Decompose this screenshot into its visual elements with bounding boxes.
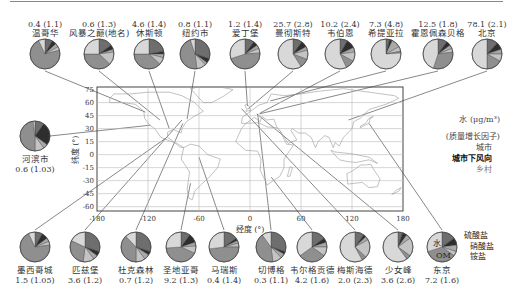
site-pie: 韦伯恩10.2 (2.4) [320, 20, 359, 69]
site-pie: 风暴之巅(地名)0.6 (1.3) [69, 20, 130, 69]
y-axis-label: 纬度 (°) [70, 136, 80, 165]
leader-line [149, 71, 169, 129]
site-pie: 河滨市0.6 (1.03) [15, 121, 54, 174]
site-value: 7.2 (1.6) [425, 276, 459, 285]
y-tick-label: 30 [85, 125, 94, 133]
site-name: 曼彻斯特 [275, 28, 311, 38]
map-gridlines [97, 87, 403, 211]
leader-line [369, 123, 442, 230]
x-tick-label: -180 [89, 215, 105, 223]
site-name: 韦伯恩 [327, 28, 354, 38]
leader-line [45, 71, 145, 112]
pie-slice-om [20, 121, 35, 151]
coastline [110, 87, 402, 200]
pie-slice-water [472, 39, 487, 69]
x-axis-ticks: -180-120-60060120180 [89, 215, 410, 223]
site-value: 12.5 (1.8) [418, 20, 457, 29]
site-pie: 匹兹堡3.6 (1.2) [68, 232, 102, 285]
leader-line [99, 71, 160, 120]
site-value: 1.2 (1.4) [228, 20, 262, 29]
x-tick-label: -120 [140, 215, 156, 223]
y-tick-label: 60 [85, 99, 94, 107]
leader-line [259, 71, 438, 114]
pie-label-water: 水 [433, 238, 441, 248]
site-pie: 杜克森林0.7 (1.2) [118, 232, 154, 285]
y-tick-label: -15 [83, 164, 94, 172]
y-tick-label: -60 [83, 203, 94, 211]
site-value: 0.3 (1.1) [254, 276, 288, 285]
site-value: 1.5 (1.05) [15, 276, 54, 285]
pie-label-om: OM [436, 251, 451, 260]
leader-line [136, 123, 183, 230]
x-tick-label: 60 [297, 215, 306, 223]
legend-value-label: 水 (μg/m³) [459, 114, 500, 124]
site-pie: 切博格0.3 (1.1) [254, 232, 288, 285]
site-name: 圣地亚哥 [163, 265, 199, 275]
chart-figure: -180-120-60060120180 75604530150-15-30-4… [0, 0, 513, 301]
y-tick-label: -30 [83, 177, 94, 185]
site-value: 4.6 (1.4) [132, 20, 166, 29]
site-name: 杜克森林 [118, 265, 154, 275]
site-value: 0.6 (1.3) [82, 20, 116, 29]
site-pie: 墨西哥城1.5 (1.05) [15, 232, 54, 285]
site-name: 休斯顿 [136, 28, 163, 38]
site-name: 霍恩佩森贝格 [411, 28, 465, 38]
site-pie: 韦尔格贡德4.2 (1.6) [290, 232, 335, 285]
site-value: 0.4 (1.4) [207, 276, 241, 285]
leader-line [349, 71, 487, 120]
site-value: 25.7 (2.8) [273, 20, 312, 29]
site-value: 4.2 (1.6) [295, 276, 329, 285]
x-axis-label: 经度 (°) [236, 224, 265, 234]
site-pie: 霍恩佩森贝格12.5 (1.8) [411, 20, 465, 69]
site-value: 78.1 (2.1) [467, 20, 506, 29]
site-name: 匹兹堡 [72, 265, 99, 275]
site-pie: 少女峰3.6 (2.6) [381, 232, 415, 285]
site-pie: 希提亚拉7.3 (4.8) [368, 20, 404, 69]
site-name: 切博格 [258, 265, 285, 275]
site-value: 3.6 (2.6) [381, 276, 415, 285]
site-name: 温哥华 [32, 28, 59, 38]
legend-sulfate: 硫酸盐 [464, 230, 488, 240]
leader-line [248, 71, 293, 109]
leader-lines [35, 71, 487, 230]
site-name: 梅斯海德 [337, 265, 373, 275]
site-name: 河滨市 [22, 154, 49, 164]
leader-line [260, 71, 340, 113]
site-pie: 爱丁堡1.2 (1.4) [228, 20, 262, 69]
site-value: 7.3 (4.8) [369, 20, 403, 29]
site-pie: 梅斯海德2.0 (2.3) [337, 232, 373, 285]
site-value: 0.4 (1.1) [28, 20, 62, 29]
y-tick-label: 0 [90, 151, 94, 159]
legend-factor-label: (质量增长因子) [446, 131, 500, 141]
site-name: 东京 [433, 265, 451, 275]
leader-line [271, 177, 312, 230]
x-tick-label: 180 [396, 215, 409, 223]
x-tick-label: 120 [345, 215, 358, 223]
site-name: 北京 [478, 28, 496, 38]
pie-slice-water [209, 232, 224, 249]
site-name: 希提亚拉 [368, 28, 404, 38]
legend-urban: 城市 [476, 142, 492, 152]
leader-line [258, 114, 271, 230]
site-pie: 温哥华0.4 (1.1) [28, 20, 62, 69]
legend-rural: 乡村 [476, 164, 492, 174]
pie-slice-om [209, 247, 239, 262]
site-pie: 纽约市0.8 (1.1) [178, 20, 212, 69]
site-name: 爱丁堡 [232, 28, 259, 38]
world-map: -180-120-60060120180 75604530150-15-30-4… [70, 86, 410, 234]
leader-line [257, 114, 398, 230]
site-pie: 北京78.1 (2.1) [467, 20, 506, 69]
y-tick-label: 15 [85, 138, 94, 146]
site-value: 3.6 (1.2) [68, 276, 102, 285]
site-name: 墨西哥城 [17, 265, 53, 275]
y-tick-label: 75 [85, 86, 94, 94]
leader-line [245, 71, 247, 106]
site-value: 2.0 (2.3) [338, 276, 372, 285]
site-value: 0.8 (1.1) [178, 20, 212, 29]
site-value: 0.6 (1.03) [15, 165, 54, 174]
leader-line [187, 71, 195, 119]
site-name: 马瑞斯 [211, 265, 238, 275]
x-tick-label: -60 [193, 215, 204, 223]
x-tick-label: 0 [248, 215, 252, 223]
legend-nitrate: 硝酸盐 [470, 241, 494, 251]
